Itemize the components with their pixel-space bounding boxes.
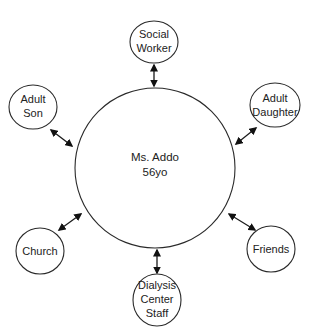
node-label-line: Adult: [262, 92, 287, 104]
node-label-line: Friends: [253, 243, 290, 255]
node-circle: [250, 83, 300, 127]
node-label-line: Church: [22, 245, 57, 257]
node-label-line: Son: [23, 107, 43, 119]
connection-adult-daughter: [236, 128, 256, 144]
center-node: Ms. Addo 56yo: [75, 88, 235, 248]
node-label-line: Worker: [136, 42, 172, 54]
node-social-worker: Social Worker: [130, 21, 178, 63]
center-age: 56yo: [143, 166, 168, 178]
connection-friends: [229, 214, 255, 230]
node-dialysis-center-staff: Dialysis Center Staff: [133, 274, 181, 326]
node-label-line: Daughter: [252, 106, 298, 118]
node-adult-son: Adult Son: [9, 85, 57, 129]
node-label-line: Social: [139, 28, 169, 40]
ecomap-diagram: Ms. Addo 56yo Social Worker Adult Son Ad…: [0, 0, 311, 334]
node-label-line: Center: [140, 293, 173, 305]
node-label-line: Dialysis: [138, 279, 176, 291]
connection-church: [59, 214, 81, 230]
node-label-line: Adult: [20, 93, 45, 105]
node-friends: Friends: [247, 226, 295, 272]
node-church: Church: [16, 228, 64, 274]
connection-adult-son: [51, 130, 72, 146]
node-label-line: Staff: [146, 307, 169, 319]
center-name: Ms. Addo: [131, 151, 179, 163]
node-adult-daughter: Adult Daughter: [250, 83, 300, 127]
